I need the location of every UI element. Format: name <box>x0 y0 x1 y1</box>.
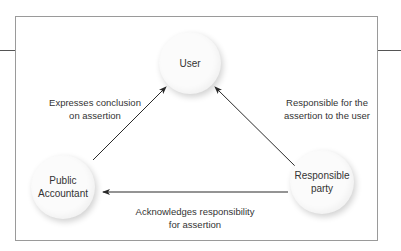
node-responsible-party: Responsible party <box>290 150 354 214</box>
node-user-label: User <box>179 57 200 70</box>
node-public-accountant: Public Accountant <box>31 155 95 219</box>
node-public-accountant-line1: Public <box>38 174 88 187</box>
edge-label-line1: Acknowledges responsibility <box>125 205 265 218</box>
node-public-accountant-line2: Accountant <box>38 187 88 200</box>
node-responsible-party-line2: party <box>294 182 349 195</box>
edge-label-line2: on assertion <box>30 109 160 122</box>
edge-label-expresses-conclusion: Expresses conclusion on assertion <box>30 96 160 122</box>
edge-label-line1: Responsible for the <box>262 96 392 109</box>
edge-label-acknowledges-responsibility: Acknowledges responsibility for assertio… <box>125 205 265 231</box>
edge-label-line1: Expresses conclusion <box>30 96 160 109</box>
edge-label-line2: assertion to the user <box>262 109 392 122</box>
node-responsible-party-line1: Responsible <box>294 169 349 182</box>
edge-label-line2: for assertion <box>125 218 265 231</box>
edge-label-responsible-for-assertion: Responsible for the assertion to the use… <box>262 96 392 122</box>
node-user: User <box>159 32 221 94</box>
